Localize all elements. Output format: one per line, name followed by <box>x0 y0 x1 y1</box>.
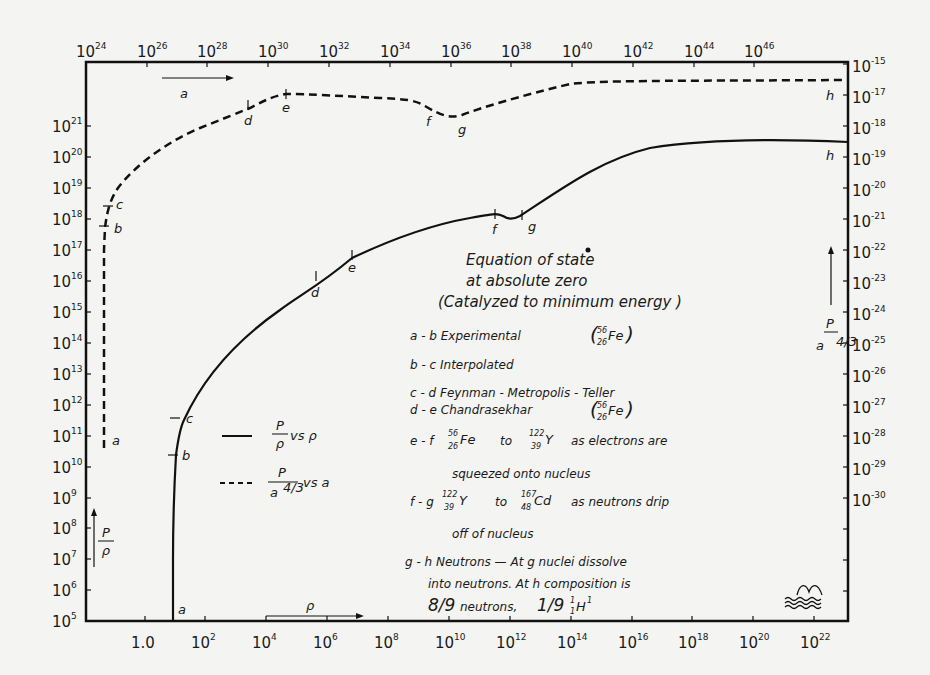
solid-point-e: e <box>348 260 356 275</box>
tick-label: 10-30 <box>852 490 886 510</box>
tick-label: 1010 <box>435 632 466 652</box>
tick-label: 10-29 <box>852 459 886 479</box>
svg-text:): ) <box>624 397 634 421</box>
tick-label: 1016 <box>52 271 83 291</box>
tick-label: 107 <box>52 549 77 569</box>
title-line-2: at absolute zero <box>466 272 588 290</box>
legend-dashed-label: vs a <box>303 475 330 490</box>
tick-label: 10-28 <box>852 428 886 448</box>
tick-label: 102 <box>191 632 216 652</box>
annotation-block: Equation of state at absolute zero (Cata… <box>405 248 682 617</box>
dashed-point-c: c <box>116 197 123 212</box>
legend: P ρ vs ρ P a 4/3 vs a <box>220 418 330 500</box>
tick-label: 105 <box>52 611 77 631</box>
svg-text:122: 122 <box>529 429 544 438</box>
bottom-axis-rho-arrow: ρ <box>266 598 364 619</box>
tick-label: 1042 <box>623 41 654 61</box>
dashed-point-a: a <box>112 433 120 448</box>
svg-text:Y: Y <box>545 432 554 447</box>
note-ab-mass: 56 <box>597 326 607 335</box>
equation-of-state-chart: 1.01021041061081010101210141016101810201… <box>0 0 930 675</box>
svg-text:1: 1 <box>570 607 575 616</box>
publisher-wave-icon <box>785 586 822 609</box>
tick-label: 106 <box>52 580 77 600</box>
svg-text:): ) <box>624 322 634 346</box>
tick-label: 1016 <box>618 632 649 652</box>
tick-label: 1015 <box>52 302 83 322</box>
tick-label: 104 <box>252 632 277 652</box>
note-e-f-text: as electrons are <box>571 434 667 448</box>
note-de-z: 26 <box>597 413 607 422</box>
dashed-point-f: f <box>426 114 433 129</box>
note-f-g-label: f - g <box>410 495 434 509</box>
tick-label: 1021 <box>52 116 83 136</box>
top-axis-a-arrow: a <box>162 75 234 101</box>
tick-label: 10-20 <box>852 180 886 200</box>
dashed-point-h: h <box>826 88 834 103</box>
dashed-point-e: e <box>282 100 290 115</box>
note-f-g-text: as neutrons drip <box>571 495 670 509</box>
svg-text:Cd: Cd <box>534 493 552 508</box>
tick-label: 10-19 <box>852 149 886 169</box>
svg-text:Fe: Fe <box>460 432 475 447</box>
svg-text:H: H <box>576 599 586 614</box>
tick-label: 1026 <box>137 41 168 61</box>
tick-label: 1010 <box>52 457 83 477</box>
left-axis-p-over-rho-arrow: P ρ <box>91 508 114 567</box>
tick-label: 1014 <box>52 333 83 353</box>
curve-point-marks <box>99 89 522 455</box>
note-de-element: Fe <box>608 403 623 418</box>
tick-label: 10-24 <box>852 304 886 324</box>
solid-series-curve <box>173 140 848 621</box>
tick-label: 1034 <box>380 41 411 61</box>
svg-text:39: 39 <box>444 503 454 512</box>
tick-label: 1013 <box>52 364 83 384</box>
legend-dashed-den: a <box>270 485 278 500</box>
tick-label: 1011 <box>52 426 83 446</box>
solid-point-h: h <box>826 148 834 163</box>
note-g-h-line3: neutrons, <box>460 600 517 614</box>
solid-point-c: c <box>186 411 193 426</box>
note-ab-element: Fe <box>608 328 623 343</box>
note-g-h-fraction2: 1/9 <box>537 595 564 615</box>
tick-label: 1030 <box>258 41 289 61</box>
tick-label: 10-17 <box>852 87 886 107</box>
tick-label: 108 <box>374 632 399 652</box>
tick-label: 1020 <box>739 632 770 652</box>
dashed-point-g: g <box>458 122 466 137</box>
tick-label: 1019 <box>52 178 83 198</box>
tick-label: 1044 <box>684 41 715 61</box>
solid-point-a: a <box>178 602 186 617</box>
legend-solid-den: ρ <box>276 436 285 451</box>
solid-point-d: d <box>311 285 320 300</box>
note-c-d: c - d Feynman - Metropolis - Teller <box>410 386 615 400</box>
tick-label: 1024 <box>76 41 107 61</box>
right-axis-p-over-a43-arrow: P a 4/3 <box>816 246 857 353</box>
note-g-h-line2: into neutrons. At h composition is <box>428 577 631 591</box>
bottom-axis-label: ρ <box>306 598 315 613</box>
note-d-e: d - e Chandrasekhar <box>410 403 533 417</box>
dashed-point-d: d <box>244 113 253 128</box>
tick-label: 1038 <box>501 41 532 61</box>
tick-label: 10-15 <box>852 56 886 76</box>
svg-text:39: 39 <box>531 442 541 451</box>
tick-label: 1.0 <box>131 634 155 652</box>
tick-label: 10-25 <box>852 335 886 355</box>
tick-label: 109 <box>52 488 77 508</box>
solid-point-g: g <box>528 219 536 234</box>
svg-text:56: 56 <box>448 429 458 438</box>
tick-label: 1012 <box>496 632 527 652</box>
note-a-b: a - b Experimental <box>410 329 521 343</box>
svg-text:1: 1 <box>570 596 575 605</box>
top-axis-label: a <box>180 86 188 101</box>
legend-solid-num: P <box>276 418 284 433</box>
note-b-c: b - c Interpolated <box>410 358 514 372</box>
tick-label: 1040 <box>562 41 593 61</box>
tick-label: 1046 <box>744 41 775 61</box>
tick-label: 1018 <box>678 632 709 652</box>
tick-label: 1036 <box>441 41 472 61</box>
note-e-f-line2: squeezed onto nucleus <box>452 467 591 481</box>
tick-label: 10-27 <box>852 397 886 417</box>
right-axis-denominator: a <box>816 338 824 353</box>
tick-label: 1032 <box>319 41 350 61</box>
